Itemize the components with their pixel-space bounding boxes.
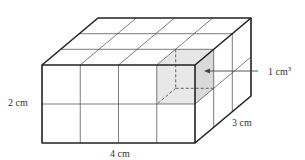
prism-outline (42, 18, 251, 143)
unit-cube-exponent: 3 (288, 65, 292, 73)
prism-diagram: 1 cm3 2 cm 4 cm 3 cm (0, 0, 305, 160)
length-label: 4 cm (110, 148, 130, 159)
unit-cube-label: 1 cm3 (268, 65, 292, 77)
height-label: 2 cm (8, 97, 28, 108)
depth-label: 3 cm (232, 117, 252, 128)
